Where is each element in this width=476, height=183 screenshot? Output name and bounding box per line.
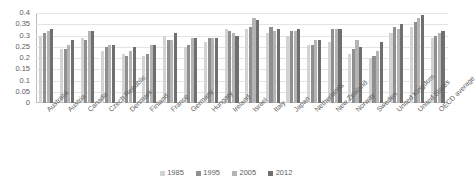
x-axis-label-slot: Czech Republic xyxy=(98,104,119,160)
x-axis-label-slot: Austria xyxy=(57,104,78,160)
bar-group xyxy=(263,13,284,103)
bar-groups xyxy=(36,13,448,103)
y-axis-tick-label: 0.15 xyxy=(15,65,30,73)
bar-group xyxy=(57,13,78,103)
bar xyxy=(194,38,197,103)
bar xyxy=(297,29,300,103)
legend-swatch xyxy=(160,171,165,176)
y-axis-tick-label: 0.35 xyxy=(15,20,30,28)
bar xyxy=(359,47,362,103)
y-axis-tick-label: 0.2 xyxy=(20,54,30,62)
x-axis-labels: AustraliaAustriaCanadaCzech RepublicDenm… xyxy=(36,104,448,160)
bar-group xyxy=(98,13,119,103)
bar-group xyxy=(304,13,325,103)
x-axis-label-slot: New Zealand xyxy=(324,104,345,160)
x-axis-label-slot: Canada xyxy=(77,104,98,160)
bar xyxy=(174,33,177,103)
legend-swatch xyxy=(268,171,273,176)
chart-legend: 1985199520052012 xyxy=(0,166,452,180)
x-axis-label-slot: OECD average xyxy=(427,104,448,160)
y-axis-tick-label: 0.05 xyxy=(15,88,30,96)
bar-group xyxy=(386,13,407,103)
bar-group xyxy=(160,13,181,103)
legend-swatch xyxy=(196,171,201,176)
bar-group xyxy=(366,13,387,103)
legend-label: 2012 xyxy=(276,169,293,177)
bar xyxy=(380,42,383,103)
legend-item[interactable]: 2005 xyxy=(232,169,256,177)
legend-label: 1995 xyxy=(203,169,220,177)
bar xyxy=(133,47,136,103)
bar xyxy=(235,36,238,104)
bar xyxy=(91,31,94,103)
x-axis-label-slot: Sweden xyxy=(366,104,387,160)
y-axis-tick-label: 0.25 xyxy=(15,43,30,51)
legend-swatch xyxy=(232,171,237,176)
y-axis-tick-label: 0 xyxy=(26,99,30,107)
bar-group xyxy=(242,13,263,103)
legend-label: 2005 xyxy=(240,169,257,177)
x-axis-label-slot: Hungary xyxy=(201,104,222,160)
x-axis-label-slot: Japan xyxy=(283,104,304,160)
bar xyxy=(277,29,280,103)
x-axis-label-slot: United States xyxy=(407,104,428,160)
y-axis: 0.40.350.30.250.20.150.10.050 xyxy=(0,13,33,103)
legend-label: 1985 xyxy=(167,169,184,177)
bar-group xyxy=(180,13,201,103)
bar-group xyxy=(36,13,57,103)
x-axis-label-slot: Israel xyxy=(242,104,263,160)
bar xyxy=(50,29,53,103)
bar-group xyxy=(77,13,98,103)
bar xyxy=(318,40,321,103)
x-axis-label-slot: France xyxy=(160,104,181,160)
bar-group xyxy=(221,13,242,103)
legend-item[interactable]: 1995 xyxy=(196,169,220,177)
x-axis-label-slot: Australia xyxy=(36,104,57,160)
bar xyxy=(256,20,259,103)
y-axis-tick-label: 0.1 xyxy=(20,77,30,85)
bar xyxy=(400,24,403,103)
bar xyxy=(71,40,74,103)
plot-area xyxy=(36,13,448,103)
x-axis-label-slot: Netherlands xyxy=(304,104,325,160)
legend-item[interactable]: 1985 xyxy=(160,169,184,177)
x-axis-label-slot: Finland xyxy=(139,104,160,160)
bar xyxy=(112,45,115,104)
bar xyxy=(153,45,156,104)
x-axis-label-slot: Norway xyxy=(345,104,366,160)
x-axis-label-slot: Italy xyxy=(263,104,284,160)
y-axis-tick-label: 0.3 xyxy=(20,32,30,40)
legend-item[interactable]: 2012 xyxy=(268,169,292,177)
x-axis-label-slot: Germany xyxy=(180,104,201,160)
bar-group xyxy=(283,13,304,103)
y-axis-tick-label: 0.4 xyxy=(20,9,30,17)
x-axis-label-slot: Ireland xyxy=(221,104,242,160)
x-axis-label-slot: Denmark xyxy=(118,104,139,160)
x-axis-label-slot: United Kingdom xyxy=(386,104,407,160)
